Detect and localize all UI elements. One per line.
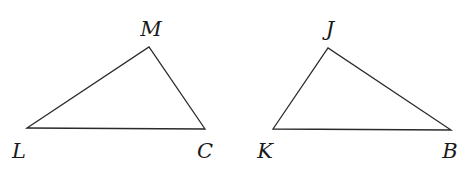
vertex-label-j: J bbox=[322, 17, 336, 41]
vertex-label-b: B bbox=[441, 139, 457, 163]
triangle-lmc: L M C bbox=[11, 17, 213, 163]
vertex-label-k: K bbox=[256, 139, 274, 163]
vertex-label-c: C bbox=[197, 139, 213, 163]
triangles-diagram: L M C K J B bbox=[0, 0, 475, 172]
triangle-kjb-outline bbox=[273, 48, 451, 130]
triangle-lmc-outline bbox=[27, 47, 205, 129]
triangle-kjb: K J B bbox=[256, 17, 458, 163]
vertex-label-l: L bbox=[11, 139, 26, 163]
vertex-label-m: M bbox=[139, 17, 162, 41]
